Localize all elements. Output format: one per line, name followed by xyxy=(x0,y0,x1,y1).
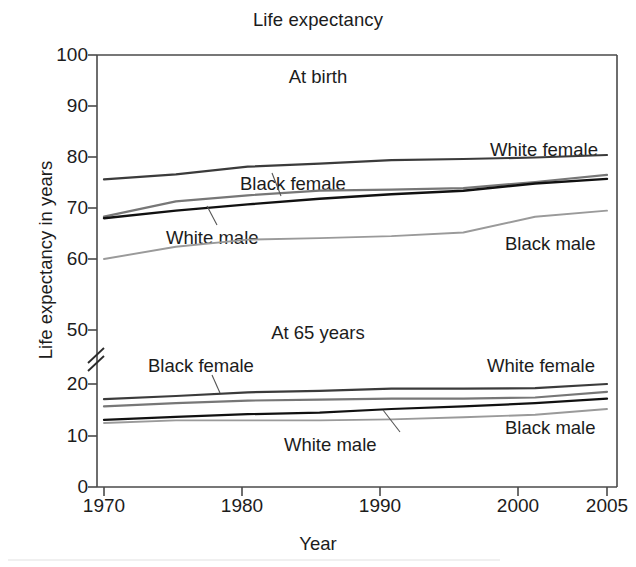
axis-break-marker xyxy=(88,348,104,371)
line-white-female-at-birth xyxy=(104,155,607,179)
series-lines-at-65-years xyxy=(104,384,607,423)
line-white-male-at-birth xyxy=(104,179,607,218)
life-expectancy-figure: Life expectancy At birth At 65 years Yea… xyxy=(0,0,636,567)
leader-black-female-at-65 xyxy=(212,375,220,393)
series-lines-at-birth xyxy=(104,155,607,259)
leader-white-male-at-birth xyxy=(207,206,217,225)
axis-frame xyxy=(97,55,617,487)
plot-canvas xyxy=(0,0,636,567)
leader-white-male-at-65 xyxy=(383,410,400,432)
line-white-male-at-65 xyxy=(104,399,607,420)
x-tick-marks xyxy=(104,487,607,496)
line-black-male-at-birth xyxy=(104,211,607,259)
y-tick-marks xyxy=(88,55,97,487)
